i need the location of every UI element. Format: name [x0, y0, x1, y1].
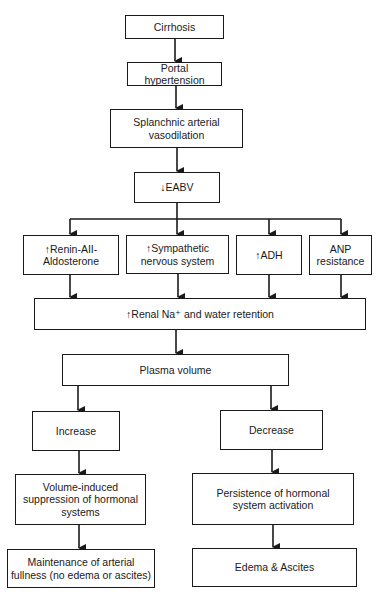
node-label: Plasma volume — [140, 364, 212, 377]
node-label: Portal hypertension — [130, 62, 219, 87]
node-edema-ascites: Edema & Ascites — [192, 548, 357, 587]
node-portal-hypertension: Portal hypertension — [127, 62, 222, 86]
node-eabv: ↓EABV — [134, 172, 220, 203]
node-label: ↑ADH — [255, 249, 282, 262]
node-label: Increase — [56, 425, 96, 438]
node-renal-retention: ↑Renal Na⁺ and water retention — [34, 298, 366, 330]
node-sympathetic-nervous-system: ↑Sympathetic nervous system — [126, 235, 229, 274]
node-volume-induced-suppression: Volume-induced suppression of hormonal s… — [15, 474, 146, 525]
node-label: Splanchnic arterial vasodilation — [125, 116, 228, 141]
node-splanchnic-vasodilation: Splanchnic arterial vasodilation — [110, 109, 243, 148]
node-maintenance-arterial-fullness: Maintenance of arterial fullness (no ede… — [7, 549, 155, 588]
node-persistence-hormonal-activation: Persistence of hormonal system activatio… — [192, 473, 354, 525]
node-increase: Increase — [32, 411, 120, 451]
node-decrease: Decrease — [220, 410, 323, 450]
node-label: ANP resistance — [312, 243, 369, 268]
node-label: Maintenance of arterial fullness (no ede… — [10, 556, 152, 581]
node-label: Persistence of hormonal system activatio… — [199, 487, 347, 512]
node-renin-aii-aldosterone: ↑Renin-AII-Aldosterone — [23, 235, 119, 275]
node-label: ↑Renal Na⁺ and water retention — [126, 308, 274, 321]
node-plasma-volume: Plasma volume — [62, 354, 289, 386]
node-anp-resistance: ANP resistance — [309, 235, 372, 275]
node-label: Edema & Ascites — [235, 561, 314, 574]
node-label: Volume-induced suppression of hormonal s… — [22, 481, 139, 519]
node-label: ↑Renin-AII-Aldosterone — [36, 243, 106, 268]
node-adh: ↑ADH — [236, 235, 302, 275]
node-label: Decrease — [249, 424, 294, 437]
node-cirrhosis: Cirrhosis — [125, 15, 224, 39]
node-label: Cirrhosis — [154, 21, 195, 34]
node-label: ↓EABV — [160, 181, 193, 194]
node-label: ↑Sympathetic nervous system — [137, 242, 218, 267]
